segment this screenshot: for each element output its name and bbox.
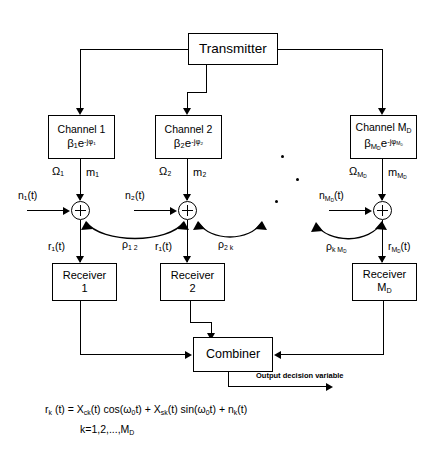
channel-M-gain: βMDe-jφMD [364, 137, 403, 152]
noise-2-label: n₂(t) [125, 189, 145, 201]
omega-M-label: ΩMD [349, 165, 367, 179]
channel-1-phase: -jφ₁ [84, 137, 96, 146]
channel-1-name: Channel 1 [58, 123, 106, 135]
arrowhead-combiner-right [274, 351, 281, 359]
receiver-2-label: Receiver [171, 269, 214, 282]
wire-tx-left [80, 49, 188, 50]
m-M-sub-d: D [403, 175, 406, 180]
m-M-label: mMD [388, 166, 407, 180]
arrowhead-channel1 [76, 108, 84, 115]
arrowhead-channel2 [183, 108, 191, 115]
formula-k-range: k=1,2,...,M [80, 423, 129, 435]
receiver-M-box[interactable]: Receiver MD [352, 263, 417, 301]
wire-rx2-down1 [190, 301, 191, 322]
formula-eq-xc: (t) = X [52, 403, 84, 415]
arrowhead-output [326, 383, 333, 391]
combiner-label: Combiner [206, 347, 260, 361]
arrowhead-adder1 [76, 194, 84, 201]
ellipsis-dot-3 [275, 200, 278, 203]
channel-M-gain-sub-d: D [377, 146, 381, 152]
omega-M-base: Ω [349, 165, 357, 177]
formula-xc-sub: ck [84, 409, 91, 416]
receiver-1-label: Receiver [63, 269, 106, 282]
receiver-2-index: 2 [189, 282, 195, 295]
channel-2-box[interactable]: Channel 2 β₂e-jφ₂ [155, 115, 222, 159]
m-2-label: m₂ [193, 166, 206, 178]
ellipsis-dot-1 [281, 155, 284, 158]
receiver-M-index: MD [377, 281, 391, 295]
channel-M-name-base: Channel M [356, 121, 407, 133]
channel-M-name: Channel MD [356, 121, 412, 135]
wire-tx-mid-over [187, 92, 207, 93]
wire-noise2 [134, 210, 171, 211]
wire-combiner-out-right [228, 386, 327, 387]
wire-tx-right [278, 49, 383, 50]
output-decision-variable-label: Output decision variable [256, 371, 344, 380]
wire-rx2-over [190, 322, 212, 323]
r-M-label: rMD(t) [388, 240, 411, 254]
wire-combiner-out-down [228, 372, 229, 386]
receiver-2-box[interactable]: Receiver 2 [160, 263, 225, 301]
noise-M-tail: (t) [334, 189, 344, 201]
correlation-arc-kM [308, 218, 390, 248]
channel-1-gain: β₁e-jφ₁ [67, 137, 96, 150]
channel-M-box[interactable]: Channel MD βMDe-jφMD [350, 115, 417, 159]
wire-noise1 [27, 210, 64, 211]
rho-2k-label: ρ2 k [218, 238, 233, 251]
arrowhead-noise1 [63, 207, 70, 215]
transmitter-box[interactable]: Transmitter [188, 33, 278, 65]
arrowhead-rx1 [76, 256, 84, 263]
omega-1-label: Ω₁ [52, 165, 64, 177]
formula-plus-xs: t) + X [135, 403, 160, 415]
omega-2-label: Ω₂ [159, 165, 172, 177]
omega-M-sub-d: D [363, 174, 366, 179]
channel-M-gain-base: β [364, 137, 371, 149]
channel-M-phase-base: -jφ [387, 137, 396, 146]
transmitter-label: Transmitter [199, 41, 267, 57]
rho-kM-sub: k MD [332, 246, 346, 253]
noise-1-label: n₁(t) [18, 189, 37, 201]
m-M-sub: MD [397, 171, 407, 180]
receiver-1-box[interactable]: Receiver 1 [52, 263, 117, 301]
channel-2-name: Channel 2 [165, 123, 213, 135]
channel-1-gain-base: β₁e [67, 137, 84, 149]
wire-rx1-right [80, 354, 185, 355]
omega-M-sub: MD [357, 170, 367, 179]
r-M-sub: MD [392, 246, 401, 253]
wire-tx-mid-down2 [187, 92, 188, 109]
arrowhead-rxM [378, 256, 386, 263]
combiner-box[interactable]: Combiner [193, 337, 273, 372]
rho-12-label: ρ1 2 [122, 238, 138, 251]
formula-plus-n: t) + n [210, 403, 234, 415]
arrowhead-noiseM [365, 207, 372, 215]
formula-k-range-sub: D [129, 429, 134, 436]
rho-kM-sub-km: k M [332, 246, 343, 253]
wire-rxM-down [383, 301, 384, 354]
formula-cos: (t) cos(ω [91, 403, 132, 415]
r-M-tail: (t) [401, 240, 411, 252]
arrowhead-noise2 [170, 207, 177, 215]
receiver-1-index: 1 [81, 282, 87, 295]
rho-2k-sub: 2 k [224, 244, 233, 251]
noise-M-sub: MD [325, 195, 334, 202]
formula-n-tail: (t) [237, 403, 247, 415]
channel-M-gain-sub: MD [371, 142, 381, 151]
receiver-M-index-sub: D [386, 286, 391, 295]
arrowhead-adderM [378, 194, 386, 201]
wire-rxM-left [281, 354, 384, 355]
r-1-label: r₁(t) [48, 240, 65, 252]
channel-M-phase-sub-d: D [400, 143, 402, 147]
rho-kM-label: ρk MD [326, 240, 346, 254]
channel-M-name-sub: D [406, 127, 411, 134]
arrowhead-combiner-left [185, 351, 192, 359]
wire-tx-left-down [80, 49, 81, 109]
channel-2-gain-base: β₂e [174, 137, 191, 149]
wire-tx-mid-down1 [206, 65, 207, 92]
arrowhead-channelM [378, 108, 386, 115]
rho-12-sub: 1 2 [128, 244, 138, 251]
channel-2-phase: -jφ₂ [191, 137, 203, 146]
arrowhead-rx2 [183, 256, 191, 263]
formula-line-2: k=1,2,...,MD [80, 423, 134, 436]
channel-1-box[interactable]: Channel 1 β₁e-jφ₁ [48, 115, 115, 159]
formula-sin: (t) sin(ω [168, 403, 206, 415]
